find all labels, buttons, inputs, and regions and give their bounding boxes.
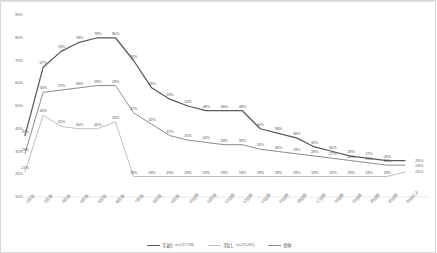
- y-axis-tick: 10%: [1, 194, 23, 199]
- legend-item[interactable]: 全体: [268, 242, 291, 248]
- data-label: 53%: [166, 92, 173, 97]
- data-label: 29%: [293, 147, 300, 152]
- data-label: 43%: [112, 115, 119, 120]
- data-label: 21%: [22, 165, 29, 170]
- data-label: 70%: [130, 54, 137, 59]
- data-label: 29%: [22, 147, 29, 152]
- legend-swatch-line: [208, 245, 221, 246]
- data-label: 59%: [112, 79, 119, 84]
- data-label: 19%: [202, 170, 209, 175]
- data-label: 19%: [311, 170, 318, 175]
- line-chart-plot: [1, 1, 437, 253]
- data-label: 48%: [202, 104, 209, 109]
- data-label: 58%: [148, 81, 155, 86]
- data-label: 30%: [275, 145, 282, 150]
- data-label: 19%: [275, 170, 282, 175]
- data-label: 58%: [76, 81, 83, 86]
- data-label: 19%: [329, 170, 336, 175]
- data-label: 34%: [202, 135, 209, 140]
- data-label: 48%: [221, 104, 228, 109]
- data-label: 31%: [257, 142, 264, 147]
- y-axis-tick: 50%: [1, 103, 23, 108]
- data-label: 24%: [383, 158, 390, 163]
- data-label: 56%: [40, 85, 47, 90]
- data-label: 19%: [239, 170, 246, 175]
- series-end-label: 21%: [415, 169, 423, 174]
- y-axis-tick: 20%: [1, 171, 23, 176]
- series-end-label: 24%: [415, 163, 423, 168]
- data-label: 78%: [76, 35, 83, 40]
- data-label: 80%: [112, 31, 119, 36]
- data-label: 59%: [94, 79, 101, 84]
- y-axis-tick: 80%: [1, 35, 23, 40]
- legend-label: 手あり: [162, 242, 173, 248]
- data-label: 19%: [221, 170, 228, 175]
- data-label: 50%: [184, 99, 191, 104]
- data-label: 41%: [58, 119, 65, 124]
- data-label: 33%: [239, 138, 246, 143]
- data-label: 32%: [311, 140, 318, 145]
- data-label: 19%: [166, 170, 173, 175]
- data-label: 30%: [329, 145, 336, 150]
- data-label: 19%: [148, 170, 155, 175]
- y-axis-tick: 90%: [1, 12, 23, 17]
- data-label: 40%: [76, 122, 83, 127]
- data-label: 19%: [293, 170, 300, 175]
- data-label: 46%: [40, 108, 47, 113]
- data-label: 37%: [166, 129, 173, 134]
- legend-swatch-line: [147, 245, 160, 246]
- data-label: 40%: [257, 122, 264, 127]
- data-label: 19%: [184, 170, 191, 175]
- data-label: 67%: [40, 60, 47, 65]
- data-label: 19%: [365, 170, 372, 175]
- legend-label: 全体: [283, 242, 291, 248]
- data-label: 47%: [130, 106, 137, 111]
- data-label: 33%: [221, 138, 228, 143]
- y-axis-tick: 60%: [1, 80, 23, 85]
- chart-legend: 手あり(n=217,738)手なし(n=255,945)全体: [1, 242, 437, 248]
- data-label: 38%: [275, 126, 282, 131]
- data-label: 37%: [22, 129, 29, 134]
- data-label: 19%: [383, 170, 390, 175]
- legend-item[interactable]: 手なし(n=255,945): [208, 242, 255, 248]
- data-label: 25%: [365, 156, 372, 161]
- legend-swatch-line: [268, 245, 281, 246]
- data-label: 78%: [94, 31, 101, 36]
- data-label: 48%: [239, 104, 246, 109]
- data-label: 19%: [130, 170, 137, 175]
- y-axis-tick: 30%: [1, 149, 23, 154]
- data-label: 27%: [329, 151, 336, 156]
- legend-label: 手なし: [223, 242, 234, 248]
- data-label: 36%: [293, 131, 300, 136]
- data-label: 57%: [58, 83, 65, 88]
- legend-sample-size: (n=255,945): [236, 243, 254, 247]
- data-label: 26%: [347, 154, 354, 159]
- legend-sample-size: (n=217,738): [175, 243, 193, 247]
- legend-item[interactable]: 手あり(n=217,738): [147, 242, 194, 248]
- data-label: 19%: [347, 170, 354, 175]
- y-axis-tick: 40%: [1, 126, 23, 131]
- data-label: 42%: [148, 117, 155, 122]
- y-axis-tick: 70%: [1, 58, 23, 63]
- data-label: 28%: [311, 149, 318, 154]
- data-label: 35%: [184, 133, 191, 138]
- data-label: 40%: [94, 122, 101, 127]
- data-label: 74%: [58, 44, 65, 49]
- data-label: 19%: [257, 170, 264, 175]
